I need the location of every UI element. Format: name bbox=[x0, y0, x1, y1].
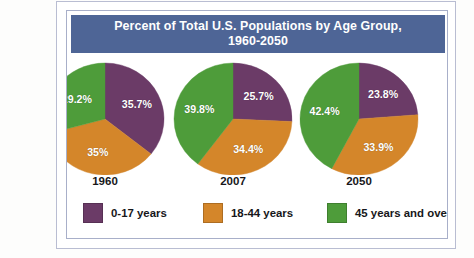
pie-panel-2007: 25.7% 34.4% 39.8% 2007 bbox=[171, 57, 295, 197]
legend-label-0-17-years: 0-17 years bbox=[111, 207, 167, 219]
legend-swatch-45-years-and-over bbox=[327, 203, 347, 223]
pie-svg-2050 bbox=[297, 57, 421, 175]
legend-item-45-years-and-over: 45 years and over bbox=[327, 203, 448, 223]
legend-swatch-18-44-years bbox=[203, 203, 223, 223]
scan-background: Percent of Total U.S. Populations by Age… bbox=[0, 0, 474, 258]
pie-wrap-2007: 25.7% 34.4% 39.8% bbox=[171, 57, 295, 175]
pie-wrap-2050: 23.8% 33.9% 42.4% bbox=[297, 57, 421, 175]
pie-panel-1960: 35.7% 35% 29.2% 1960 bbox=[66, 57, 167, 197]
pie-svg-1960 bbox=[66, 57, 167, 175]
pie-year-label-2007: 2007 bbox=[171, 175, 295, 187]
legend-item-18-44-years: 18-44 years bbox=[203, 203, 293, 223]
legend-label-45-years-and-over: 45 years and over bbox=[355, 207, 448, 219]
pie-charts-row: 35.7% 35% 29.2% 1960 25.7% 34.4% 39.8% 2… bbox=[67, 57, 448, 197]
chart-title-line-1: Percent of Total U.S. Populations by Age… bbox=[114, 19, 402, 34]
pie-year-label-1960: 1960 bbox=[66, 175, 167, 187]
chart-title-line-2: 1960-2050 bbox=[228, 34, 288, 49]
pie-panel-2050: 23.8% 33.9% 42.4% 2050 bbox=[297, 57, 421, 197]
legend-item-0-17-years: 0-17 years bbox=[83, 203, 167, 223]
pie-slice-2007-0-17-years bbox=[233, 63, 292, 122]
pie-wrap-1960: 35.7% 35% 29.2% bbox=[66, 57, 167, 175]
pie-svg-2007 bbox=[171, 57, 295, 175]
figure-container: Percent of Total U.S. Populations by Age… bbox=[66, 10, 448, 239]
pie-slice-2050-0-17-years bbox=[359, 63, 418, 119]
chart-title-banner: Percent of Total U.S. Populations by Age… bbox=[71, 15, 445, 53]
pie-year-label-2050: 2050 bbox=[297, 175, 421, 187]
legend-swatch-0-17-years bbox=[83, 203, 103, 223]
chart-legend: 0-17 years 18-44 years 45 years and over bbox=[75, 199, 441, 233]
legend-label-18-44-years: 18-44 years bbox=[231, 207, 293, 219]
